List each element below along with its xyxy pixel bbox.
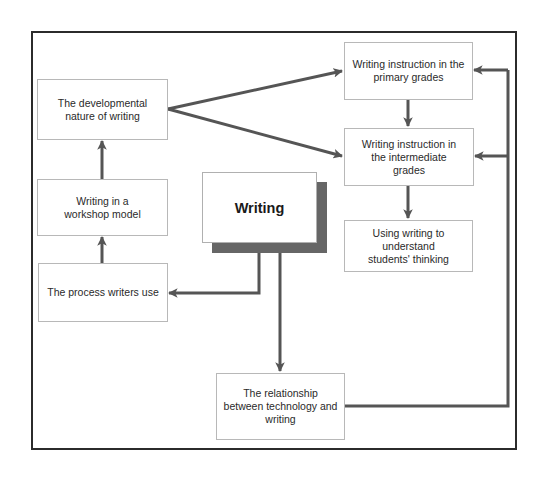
- node-process-writers-use: The process writers use: [38, 263, 168, 322]
- node-label: Writing instruction in the primary grade…: [351, 58, 466, 84]
- central-node-label: Writing: [235, 200, 285, 216]
- central-node-writing: Writing: [202, 172, 317, 243]
- node-primary-grades: Writing instruction in the primary grade…: [344, 42, 473, 100]
- node-label: The developmental nature of writing: [44, 97, 161, 123]
- arrow-writing-to-process: [169, 253, 259, 293]
- node-label: Using writing to understand students' th…: [351, 227, 466, 266]
- node-developmental-nature: The developmental nature of writing: [37, 79, 168, 140]
- arrow-developmental-to-primary: [168, 71, 342, 109]
- arrow-developmental-to-intermediate: [168, 109, 342, 156]
- node-technology-relationship: The relationship between technology and …: [216, 373, 345, 440]
- node-label: The process writers use: [47, 286, 158, 299]
- node-workshop-model: Writing in a workshop model: [37, 179, 168, 236]
- node-label: The relationship between technology and …: [223, 387, 338, 426]
- node-label: Writing instruction in the intermediate …: [351, 138, 467, 177]
- node-intermediate-grades: Writing instruction in the intermediate …: [344, 128, 474, 186]
- node-label: Writing in a workshop model: [44, 195, 161, 221]
- node-understand-thinking: Using writing to understand students' th…: [344, 220, 473, 272]
